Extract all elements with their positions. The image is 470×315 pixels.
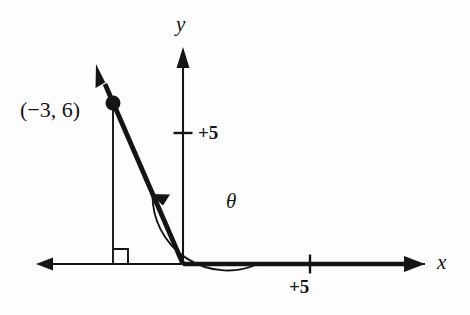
angle-arc-group xyxy=(150,194,258,270)
x-axis-right-arrowhead xyxy=(404,256,425,272)
trigonometry-figure: y x +5 +5 (−3, 6) θ xyxy=(0,0,470,315)
figure-canvas xyxy=(0,0,470,315)
angle-theta-label: θ xyxy=(226,191,236,212)
x-axis-left-arrowhead xyxy=(36,258,53,271)
y-axis-arrowhead xyxy=(177,47,190,68)
right-angle-marker xyxy=(113,249,128,264)
point-marker-dot xyxy=(106,96,121,111)
y-axis-tick-label: +5 xyxy=(198,123,218,142)
point-coordinate-label: (−3, 6) xyxy=(20,99,80,121)
y-axis xyxy=(174,47,193,264)
terminal-ray-group xyxy=(96,64,184,264)
terminal-ray-arrowhead xyxy=(96,64,110,91)
y-axis-label: y xyxy=(176,14,185,35)
x-axis-tick-label: +5 xyxy=(289,277,309,296)
x-axis-label: x xyxy=(437,252,446,273)
terminal-ray xyxy=(105,84,183,264)
